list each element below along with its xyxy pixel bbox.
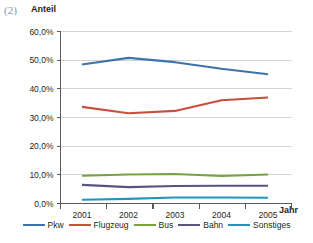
y-tick-label: 40,0% xyxy=(29,84,54,94)
chart-legend: PkwFlugzeugBusBahnSonstiges xyxy=(0,220,313,230)
chart-figure: (2) Anteil Jahr 60,0%50,0%40,0%30,0%20,0… xyxy=(0,0,313,243)
line-chart-plot: 60,0%50,0%40,0%30,0%20,0%10,0%0,0%200120… xyxy=(0,0,313,243)
y-tick-label: 50,0% xyxy=(29,55,54,65)
y-tick-label: 0,0% xyxy=(34,199,54,209)
x-tick-label: 2004 xyxy=(212,210,231,220)
legend-item-sonstiges[interactable]: Sonstiges xyxy=(228,220,290,230)
y-tick-label: 10,0% xyxy=(29,170,54,180)
legend-swatch-icon xyxy=(23,224,45,226)
legend-item-label: Bus xyxy=(159,220,174,230)
legend-swatch-icon xyxy=(134,224,156,226)
series-line-sonstiges xyxy=(82,197,268,199)
legend-item-label: Sonstiges xyxy=(253,220,290,230)
legend-swatch-icon xyxy=(228,224,250,226)
y-tick-label: 30,0% xyxy=(29,113,54,123)
legend-item-bahn[interactable]: Bahn xyxy=(178,220,223,230)
legend-swatch-icon xyxy=(178,224,200,226)
legend-item-flugzeug[interactable]: Flugzeug xyxy=(69,220,129,230)
series-line-flugzeug xyxy=(82,97,268,113)
series-line-bahn xyxy=(82,185,268,187)
x-tick-label: 2005 xyxy=(259,210,278,220)
series-line-bus xyxy=(82,174,268,176)
legend-item-bus[interactable]: Bus xyxy=(134,220,174,230)
y-tick-label: 20,0% xyxy=(29,141,54,151)
legend-item-label: Flugzeug xyxy=(94,220,129,230)
y-tick-label: 60,0% xyxy=(29,27,54,37)
x-tick-label: 2001 xyxy=(73,210,92,220)
x-tick-label: 2002 xyxy=(119,210,138,220)
legend-item-label: Bahn xyxy=(203,220,223,230)
legend-item-label: Pkw xyxy=(48,220,64,230)
x-tick-label: 2003 xyxy=(166,210,185,220)
legend-item-pkw[interactable]: Pkw xyxy=(23,220,64,230)
legend-swatch-icon xyxy=(69,224,91,226)
